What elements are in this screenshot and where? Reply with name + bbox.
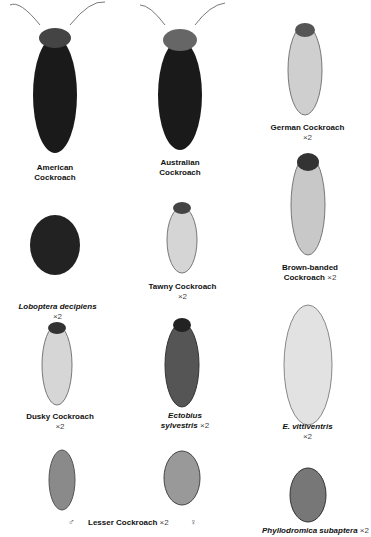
- label-lesser: Lesser Cockroach ×2: [88, 518, 188, 528]
- label-german: German Cockroach×2: [260, 123, 355, 143]
- female-symbol: ♀: [190, 517, 197, 527]
- label-dusky: Dusky Cockroach×2: [20, 412, 100, 432]
- label-loboptera: Loboptera decipiens×2: [10, 302, 105, 322]
- label-phyllodromica: Phyllodromica subaptera ×2: [262, 526, 371, 536]
- label-american: AmericanCockroach: [20, 163, 90, 183]
- label-australian: AustralianCockroach: [145, 158, 215, 178]
- label-ectobius: Ectobiussylvestris ×2: [145, 411, 225, 431]
- male-symbol: ♂: [68, 517, 75, 527]
- label-vittiventris: E. vittiventris×2: [270, 422, 345, 442]
- label-brown-banded: Brown-bandedCockroach ×2: [265, 263, 355, 283]
- label-tawny: Tawny Cockroach×2: [135, 282, 230, 302]
